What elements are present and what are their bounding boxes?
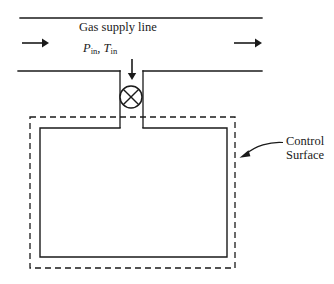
control-surface-label-line1: Control	[286, 134, 324, 148]
inlet-pressure-subscript: in	[91, 46, 98, 56]
control-surface-label: ControlSurface	[286, 134, 324, 162]
inlet-state-label: Pin, Tin	[83, 41, 117, 55]
inlet-temperature-symbol: T	[104, 41, 111, 55]
flow-arrow-left-icon	[22, 39, 49, 48]
gas-supply-line-label: Gas supply line	[79, 20, 157, 34]
diagram-canvas	[0, 0, 334, 284]
rigid-tank-outline	[40, 128, 227, 257]
inlet-pressure-symbol: P	[83, 41, 91, 55]
control-surface-label-line2: Surface	[286, 148, 324, 162]
inlet-temperature-subscript: in	[111, 46, 118, 56]
flow-arrow-right-icon	[234, 39, 262, 48]
inlet-flow-arrow-down-icon	[128, 59, 136, 80]
valve-symbol	[120, 86, 142, 108]
control-surface-leader-arrow	[240, 142, 284, 157]
gas-charging-tank-diagram: Gas supply line Pin, Tin ControlSurface	[0, 0, 334, 284]
